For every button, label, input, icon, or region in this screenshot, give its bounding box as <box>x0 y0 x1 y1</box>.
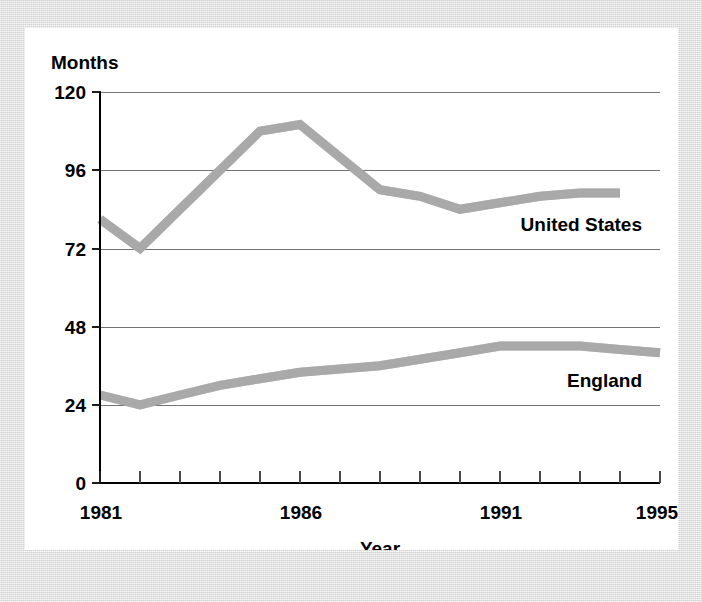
figure-card: 120 96 72 48 24 0 1981 1986 1991 1995 Mo… <box>25 28 678 550</box>
x-tick-label-1991: 1991 <box>480 502 523 523</box>
x-tick-label-1995: 1995 <box>636 502 678 523</box>
gridlines <box>100 92 660 405</box>
x-tick-label-1986: 1986 <box>280 502 322 523</box>
axes <box>99 91 660 483</box>
x-tickmarks <box>100 471 660 483</box>
y-tick-label-72: 72 <box>65 239 86 260</box>
y-tick-label-120: 120 <box>54 82 86 103</box>
y-tick-labels: 120 96 72 48 24 0 <box>54 82 86 494</box>
y-tick-label-24: 24 <box>65 395 87 416</box>
y-tick-label-0: 0 <box>75 473 86 494</box>
y-tickmarks <box>92 92 100 483</box>
series-label-england: England <box>567 370 642 391</box>
y-tick-label-96: 96 <box>65 160 86 181</box>
y-axis-title: Months <box>51 52 119 73</box>
x-tick-labels: 1981 1986 1991 1995 <box>80 502 678 523</box>
series-label-united-states: United States <box>521 214 642 235</box>
x-tick-label-1981: 1981 <box>80 502 123 523</box>
chart-svg: 120 96 72 48 24 0 1981 1986 1991 1995 Mo… <box>25 28 678 550</box>
y-tick-label-48: 48 <box>65 317 86 338</box>
x-axis-title: Year <box>360 538 401 550</box>
line-chart: 120 96 72 48 24 0 1981 1986 1991 1995 Mo… <box>25 28 678 550</box>
